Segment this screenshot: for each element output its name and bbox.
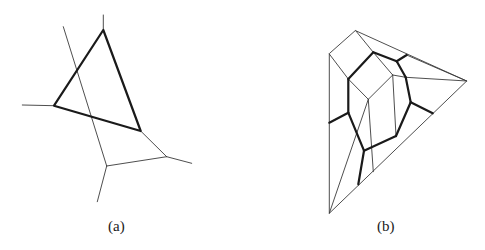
thick-edge xyxy=(411,102,433,113)
thick-edge xyxy=(358,151,364,185)
panel-a-label: (a) xyxy=(108,218,125,235)
voronoi-edge xyxy=(107,157,167,166)
panel-b-diagram xyxy=(329,31,466,214)
thick-edge xyxy=(397,61,406,77)
voronoi-edge xyxy=(97,166,106,202)
thin-edge xyxy=(368,75,392,99)
panel-b-label: (b) xyxy=(377,218,395,235)
delaunay-triangle xyxy=(54,30,141,131)
panel-a-diagram xyxy=(22,15,191,202)
thin-edge xyxy=(329,54,348,79)
thick-edge xyxy=(329,113,348,123)
voronoi-edge xyxy=(141,131,167,157)
thick-edge xyxy=(364,136,396,151)
figure-canvas xyxy=(0,0,485,250)
thick-edge xyxy=(348,52,373,79)
thick-edge xyxy=(397,55,407,61)
thick-edge xyxy=(406,77,411,102)
voronoi-edge xyxy=(63,27,106,166)
thin-edge xyxy=(348,79,368,99)
thin-edge xyxy=(407,55,467,81)
thin-edge xyxy=(368,99,373,171)
outer-boundary xyxy=(329,31,466,214)
voronoi-edge xyxy=(22,105,54,106)
voronoi-edge xyxy=(167,157,192,164)
thick-edge xyxy=(396,102,411,136)
thin-edge xyxy=(356,31,374,53)
thin-edge xyxy=(406,77,467,81)
thin-edge xyxy=(393,75,396,136)
